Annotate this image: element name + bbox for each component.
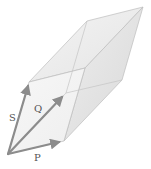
vector-p-label: P bbox=[34, 152, 41, 163]
vector-s-label: S bbox=[9, 112, 16, 123]
parallelepiped-diagram: S Q P bbox=[0, 0, 151, 169]
vector-q-label: Q bbox=[34, 103, 42, 114]
